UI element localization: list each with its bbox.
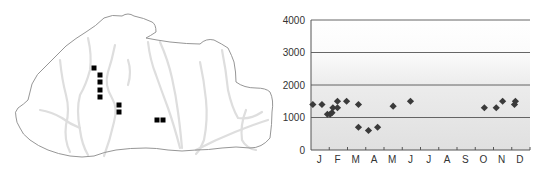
y-tick-label: 3000 [283, 47, 306, 58]
x-tick-label: S [462, 154, 469, 165]
country-outline [15, 14, 272, 157]
map-marker [98, 88, 103, 93]
y-tick-label: 0 [299, 145, 305, 156]
x-tick-label: J [408, 154, 413, 165]
x-tick-label: D [516, 154, 523, 165]
map-marker [98, 73, 103, 78]
map-marker [117, 103, 122, 108]
x-tick-label: A [444, 154, 451, 165]
map-marker [161, 118, 166, 123]
x-tick-label: J [317, 154, 322, 165]
map-marker [98, 80, 103, 85]
specimen-markers [92, 66, 166, 123]
elevation-scatter-chart: 01000200030004000 JFMAMJJASOND [275, 0, 552, 172]
rivers [40, 38, 268, 156]
map-marker [98, 95, 103, 100]
y-tick-label: 1000 [283, 112, 306, 123]
x-tick-label: A [371, 154, 378, 165]
distribution-map [0, 0, 275, 172]
x-tick-label: J [426, 154, 431, 165]
y-tick-label: 2000 [283, 80, 306, 91]
map-marker [155, 118, 160, 123]
x-tick-label: M [352, 154, 360, 165]
x-tick-label: O [480, 154, 488, 165]
map-marker [117, 110, 122, 115]
map-marker [92, 66, 97, 71]
x-tick-label: F [334, 154, 340, 165]
x-tick-label: M [388, 154, 396, 165]
y-tick-labels: 01000200030004000 [283, 15, 306, 156]
x-tick-label: N [498, 154, 505, 165]
y-tick-label: 4000 [283, 15, 306, 26]
